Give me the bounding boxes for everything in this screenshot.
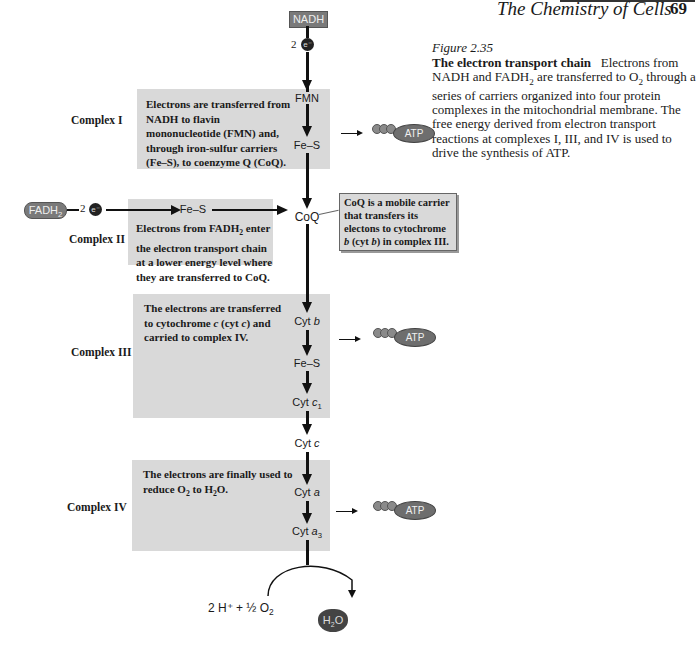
chain-line [306,153,309,201]
arrow-head [302,80,312,91]
complex-i-description: Electrons are transferred from NADH to f… [146,97,292,170]
fe-s-to-coq-line [212,209,279,211]
atp-arrow [341,133,361,134]
reactants-text: 2 H⁺ + ½ O [208,601,269,615]
atp-label: ATP [393,124,435,143]
callout-text: (cyt [349,236,371,247]
complex-iv-label: Complex IV [67,501,127,513]
arrow-head [302,302,312,313]
electron-icon: e⁻ [89,203,102,216]
arrow-head [302,513,312,524]
callout-text: CoQ is a mobile carrier that transfers i… [344,197,449,234]
caption-title: The electron transport chain [432,55,591,70]
nadh-electrons: 2 [291,38,297,50]
chain-line [306,26,309,38]
complex-ii-description: Electrons from FADH2 enter the electron … [136,221,278,284]
page-number: 69 [670,0,687,19]
chain-line [306,411,309,425]
complex-iv-description: The electrons are finally used to reduce… [143,467,293,501]
atp-arrow [339,339,359,340]
carrier-cyt-a3: Cyt a3 [290,525,324,540]
arrow-head [277,205,288,215]
carrier-fmn: FMN [293,92,321,104]
chain-line [306,224,309,303]
carrier-fe-s-iii: Fe–S [292,357,322,369]
fadh-text: FADH [29,204,58,216]
reaction-arc [260,560,370,620]
arrow-head [302,345,312,356]
complex-i-label: Complex I [71,114,122,126]
carrier-coq: CoQ [295,210,320,224]
atp-icon: ATP [373,499,438,519]
carrier-fe-s: Fe–S [292,139,322,151]
complex-ii-label: Complex II [69,233,125,245]
atp-icon: ATP [373,326,438,346]
atp-label: ATP [394,501,436,520]
fadh2-label: FADH2 [24,202,67,219]
running-title: The Chemistry of Cells [497,0,672,20]
fadh-electron-count: 2 [80,202,86,214]
desc-text: to H [190,483,213,495]
atp-label: ATP [394,328,436,347]
arrow-head [302,126,312,137]
complex-iii-label: Complex III [71,346,131,358]
arrow-head [302,198,312,209]
atp-arrow [336,511,356,512]
product-text: H [323,614,331,626]
desc-text: Electrons from FADH [136,222,239,234]
arrow-head [302,383,312,394]
atp-icon: ATP [372,122,437,142]
callout-text: ) in complex III. [377,236,449,247]
chain-line [306,452,309,476]
figure-label: Figure 2.35 [432,40,493,56]
subscript: 2 [269,607,274,617]
caption-text: are transferred to O [534,69,639,84]
arrow-head [302,474,312,485]
fadh-connector [67,209,79,211]
subscript: 2 [58,210,62,219]
product-text: O [335,614,344,626]
chain-line [306,330,309,346]
carrier-cyt-b: Cyt b [292,315,322,327]
carrier-cyt-c: Cyt c [294,437,319,449]
coq-callout: CoQ is a mobile carrier that transfers i… [339,193,457,251]
water-product-icon: H2O [318,609,348,632]
carrier-cyt-a: Cyt a [292,486,322,498]
electron-count: 2 [291,38,297,50]
carrier-fe-s-ii: Fe–S [180,203,206,215]
carrier-cyt-c1: Cyt c1 [290,396,323,411]
reactants: 2 H⁺ + ½ O2 [208,601,274,617]
arrow-head [302,424,312,435]
callout-pointer [319,210,339,215]
desc-text: O. [217,483,228,495]
fadh-arrow-line [106,209,176,211]
electron-icon: e⁻ [301,38,314,51]
chain-line [306,102,309,124]
figure-caption: The electron transport chain Electrons f… [432,56,696,160]
complex-iii-description: The electrons are transferred to cytochr… [144,301,284,345]
